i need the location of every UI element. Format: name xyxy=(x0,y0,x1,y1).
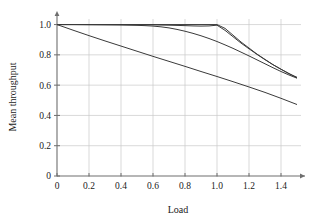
x-tick-label: 0.6 xyxy=(147,181,159,191)
x-tick-label: 0 xyxy=(55,181,60,191)
y-tick-label: 0.6 xyxy=(39,81,51,91)
y-tick-labels: 00.20.40.60.81.0 xyxy=(39,20,51,181)
axes xyxy=(55,11,305,178)
data-curve-curve-2 xyxy=(57,25,297,78)
x-tick-label: 1.4 xyxy=(275,181,287,191)
x-tick-labels: 00.20.40.60.81.01.21.4 xyxy=(55,181,288,191)
x-axis-arrow xyxy=(300,174,305,179)
data-curve-curve-3 xyxy=(57,25,297,79)
y-tick-label: 0 xyxy=(46,171,51,181)
data-curves xyxy=(57,25,297,105)
x-tick-label: 0.2 xyxy=(83,181,95,191)
y-axis-title: Mean throughput xyxy=(7,62,18,131)
x-tick-label: 1.0 xyxy=(211,181,223,191)
data-curve-curve-1 xyxy=(57,25,297,78)
x-axis-title: Load xyxy=(168,204,189,215)
y-axis-arrow xyxy=(55,11,60,16)
data-curve-curve-4 xyxy=(57,25,297,105)
y-tick-label: 0.8 xyxy=(39,50,51,60)
line-chart: 00.20.40.60.81.01.21.4 00.20.40.60.81.0 … xyxy=(0,0,324,219)
y-tick-label: 0.4 xyxy=(39,111,51,121)
y-tick-label: 0.2 xyxy=(39,141,51,151)
gridlines xyxy=(57,19,301,176)
x-tick-label: 1.2 xyxy=(243,181,255,191)
x-tick-label: 0.4 xyxy=(115,181,127,191)
chart-figure: 00.20.40.60.81.01.21.4 00.20.40.60.81.0 … xyxy=(0,0,324,219)
x-tick-label: 0.8 xyxy=(179,181,191,191)
y-tick-label: 1.0 xyxy=(39,20,51,30)
